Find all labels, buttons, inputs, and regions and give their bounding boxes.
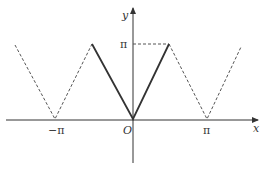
solid-curve — [92, 44, 169, 119]
dashed-curve-left — [15, 44, 92, 119]
origin-label: O — [123, 125, 132, 136]
x-axis-label: x — [253, 123, 259, 134]
y-tick-label-pi: π — [120, 39, 127, 50]
tick-label-pi: π — [203, 125, 210, 136]
function-graph: y x O −π π π — [0, 0, 261, 176]
dashed-curve-right — [169, 44, 241, 119]
tick-label-neg-pi: −π — [48, 125, 64, 136]
graph-canvas — [0, 0, 261, 176]
y-axis-label: y — [122, 10, 128, 21]
